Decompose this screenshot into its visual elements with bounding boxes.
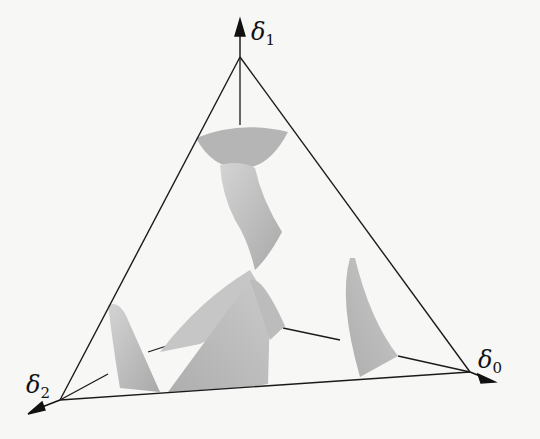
axis-label-delta1: δ1 — [251, 18, 275, 49]
arrow-left-icon — [28, 402, 45, 414]
axis-label-delta0: δ0 — [478, 346, 502, 377]
arrow-up-icon — [235, 19, 245, 36]
axis-label-delta2: δ2 — [26, 371, 50, 402]
surfaces — [108, 127, 398, 392]
simplex-diagram: δ1 δ0 δ2 — [0, 0, 540, 439]
